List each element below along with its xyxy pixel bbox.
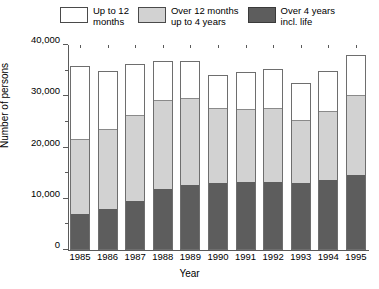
bar-segment-dark-1986 — [99, 209, 117, 249]
x-tick-label-1995: 1995 — [345, 251, 366, 262]
bar-segment-dark-1989 — [181, 185, 199, 249]
x-tick-1991 — [246, 45, 247, 48]
bar-segment-dark-1988 — [154, 189, 172, 249]
y-axis-title: Number of persons — [0, 63, 10, 148]
legend-item-over-12-months-up-to-4-years: Over 12 months up to 4 years — [138, 6, 239, 27]
chart-legend: Up to 12 months Over 12 months up to 4 y… — [60, 6, 375, 38]
bar-1988[interactable] — [153, 61, 173, 250]
bar-segment-middle-1987 — [126, 115, 144, 201]
x-tick-label-1986: 1986 — [97, 251, 118, 262]
bar-1986[interactable] — [98, 71, 118, 250]
x-tick-1992 — [273, 45, 274, 48]
bar-1989[interactable] — [180, 61, 200, 250]
bar-1987[interactable] — [125, 64, 145, 250]
x-tick-label-1987: 1987 — [125, 251, 146, 262]
legend-item-up-to-12-months: Up to 12 months — [60, 6, 129, 27]
legend-swatch-up-to-12-months — [60, 7, 88, 23]
x-tick-label-1993: 1993 — [290, 251, 311, 262]
bar-segment-middle-1986 — [99, 129, 117, 209]
bar-column-1989[interactable]: 1989 — [180, 45, 200, 250]
x-tick-1993 — [301, 45, 302, 48]
bar-1991[interactable] — [236, 72, 256, 250]
legend-label-over-12-months-up-to-4-years: Over 12 months up to 4 years — [171, 6, 239, 27]
x-tick-label-1994: 1994 — [318, 251, 339, 262]
legend-swatch-over-12-months-up-to-4-years — [138, 7, 166, 23]
x-tick-1988 — [163, 45, 164, 48]
x-tick-label-1989: 1989 — [180, 251, 201, 262]
bar-1992[interactable] — [263, 69, 283, 250]
x-tick-1985 — [80, 45, 81, 48]
bar-segment-middle-1985 — [71, 139, 89, 214]
bar-1995[interactable] — [346, 55, 366, 250]
x-tick-label-1988: 1988 — [152, 251, 173, 262]
legend-swatch-over-4-years-incl-life — [248, 7, 276, 23]
bar-column-1993[interactable]: 1993 — [291, 45, 311, 250]
bar-group: 1985198619871988198919901991199219931994… — [68, 45, 368, 250]
bar-segment-dark-1991 — [237, 182, 255, 249]
bar-segment-middle-1995 — [347, 95, 365, 174]
bar-segment-dark-1995 — [347, 175, 365, 249]
bar-column-1985[interactable]: 1985 — [70, 45, 90, 250]
y-tick-label-0: 0 — [55, 239, 60, 250]
bar-1994[interactable] — [318, 71, 338, 250]
bar-column-1991[interactable]: 1991 — [236, 45, 256, 250]
legend-label-up-to-12-months: Up to 12 months — [93, 6, 129, 27]
bar-segment-dark-1990 — [209, 183, 227, 249]
x-tick-1989 — [190, 45, 191, 48]
bar-segment-dark-1992 — [264, 182, 282, 249]
x-tick-1990 — [218, 45, 219, 48]
y-tick-label-20000: 20,000 — [31, 136, 60, 147]
bar-column-1995[interactable]: 1995 — [346, 45, 366, 250]
legend-label-over-4-years-incl-life: Over 4 years incl. life — [281, 6, 335, 27]
bar-segment-middle-1990 — [209, 108, 227, 183]
x-tick-1986 — [108, 45, 109, 48]
x-tick-label-1991: 1991 — [235, 251, 256, 262]
x-tick-label-1990: 1990 — [207, 251, 228, 262]
bar-column-1988[interactable]: 1988 — [153, 45, 173, 250]
bar-1993[interactable] — [291, 83, 311, 250]
legend-item-over-4-years-incl-life: Over 4 years incl. life — [248, 6, 335, 27]
bar-1990[interactable] — [208, 75, 228, 250]
x-tick-1995 — [356, 45, 357, 48]
bar-column-1992[interactable]: 1992 — [263, 45, 283, 250]
bar-segment-middle-1988 — [154, 100, 172, 189]
bar-segment-middle-1992 — [264, 108, 282, 182]
chart-container: Up to 12 months Over 12 months up to 4 y… — [0, 0, 379, 289]
bar-segment-middle-1989 — [181, 98, 199, 185]
bar-segment-dark-1985 — [71, 214, 89, 249]
bar-1985[interactable] — [70, 66, 90, 251]
bar-segment-dark-1993 — [292, 183, 310, 249]
y-tick-label-30000: 30,000 — [31, 85, 60, 96]
x-tick-1994 — [328, 45, 329, 48]
bar-column-1987[interactable]: 1987 — [125, 45, 145, 250]
y-tick-label-40000: 40,000 — [31, 34, 60, 45]
bar-column-1994[interactable]: 1994 — [318, 45, 338, 250]
bar-segment-dark-1994 — [319, 180, 337, 249]
x-tick-label-1985: 1985 — [69, 251, 90, 262]
plot-area: 010,00020,00030,00040,000 19851986198719… — [68, 45, 368, 250]
bar-segment-middle-1991 — [237, 109, 255, 183]
bar-column-1990[interactable]: 1990 — [208, 45, 228, 250]
x-tick-1987 — [135, 45, 136, 48]
bar-segment-middle-1994 — [319, 111, 337, 180]
bar-segment-dark-1987 — [126, 201, 144, 249]
x-axis-title: Year — [0, 268, 379, 279]
x-tick-label-1992: 1992 — [263, 251, 284, 262]
bar-column-1986[interactable]: 1986 — [98, 45, 118, 250]
bar-segment-middle-1993 — [292, 120, 310, 183]
y-tick-label-10000: 10,000 — [31, 187, 60, 198]
